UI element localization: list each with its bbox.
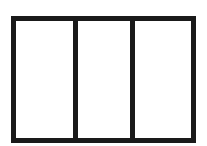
panel-divider-1 xyxy=(73,21,78,138)
window-frame xyxy=(11,16,196,143)
panel-divider-2 xyxy=(130,21,135,138)
